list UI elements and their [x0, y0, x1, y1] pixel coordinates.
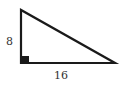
right-triangle	[21, 10, 115, 63]
horizontal-leg-label: 16	[54, 69, 68, 82]
triangle-diagram: 8 16	[0, 0, 123, 85]
vertical-leg-label: 8	[6, 35, 13, 48]
right-angle-marker	[21, 56, 29, 63]
